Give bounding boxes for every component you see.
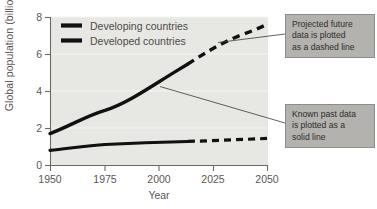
callout-projected-line-2: data is plotted: [292, 30, 369, 41]
x-tick-label-2050: 2050: [244, 174, 290, 185]
legend-label-developing: Developing countries: [90, 20, 188, 32]
y-tick-label-0: 0: [20, 160, 42, 171]
y-axis-label: Global population (billions): [3, 0, 15, 123]
x-tick-label-1950: 1950: [27, 174, 73, 185]
y-tick-label-8: 8: [20, 12, 42, 23]
annotation-callout-projected: Projected future data is plotted as a da…: [285, 14, 375, 58]
x-axis-label: Year: [50, 189, 268, 201]
legend-label-developed: Developed countries: [90, 35, 186, 47]
y-tick-label-6: 6: [20, 49, 42, 60]
y-tick-label-2: 2: [20, 123, 42, 134]
callout-known-line-2: is plotted as a: [292, 120, 369, 131]
x-tick-label-1975: 1975: [82, 174, 128, 185]
callout-known-line-1: Known past data: [292, 109, 369, 120]
annotation-callout-known: Known past data is plotted as a solid li…: [285, 104, 375, 148]
y-tick-label-4: 4: [20, 86, 42, 97]
callout-known-line-3: solid line: [292, 132, 369, 143]
x-tick-label-2000: 2000: [136, 174, 182, 185]
callout-projected-line-3: as a dashed line: [292, 42, 369, 53]
x-tick-label-2025: 2025: [190, 174, 236, 185]
callout-projected-line-1: Projected future: [292, 19, 369, 30]
y-axis-ticks: [45, 18, 50, 166]
chart-figure: Global population (billions) Year 8 6 4 …: [0, 0, 377, 209]
